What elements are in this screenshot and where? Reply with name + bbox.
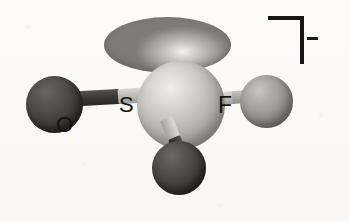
minus-charge-icon — [307, 37, 318, 40]
charge-sign-text: − — [0, 0, 1, 1]
atom-label-fluorine: F — [218, 94, 232, 117]
atom-oxygen-left — [26, 76, 83, 133]
atom-sulfur — [137, 61, 225, 149]
bracket-top-stroke — [268, 16, 304, 20]
atom-oxygen-bottom — [152, 141, 206, 195]
bracket-side-stroke — [300, 16, 304, 64]
figure-title: Fluorosulfite anion ball-and-stick model — [0, 0, 1, 1]
charge-bracket — [268, 16, 314, 64]
atom-fluorine — [240, 75, 293, 128]
molecular-structure-figure: O S F − Fluorosulfite anion ball-and-sti… — [0, 0, 349, 221]
atom-label-oxygen: O — [56, 114, 73, 136]
atom-label-sulfur: S — [119, 94, 134, 116]
